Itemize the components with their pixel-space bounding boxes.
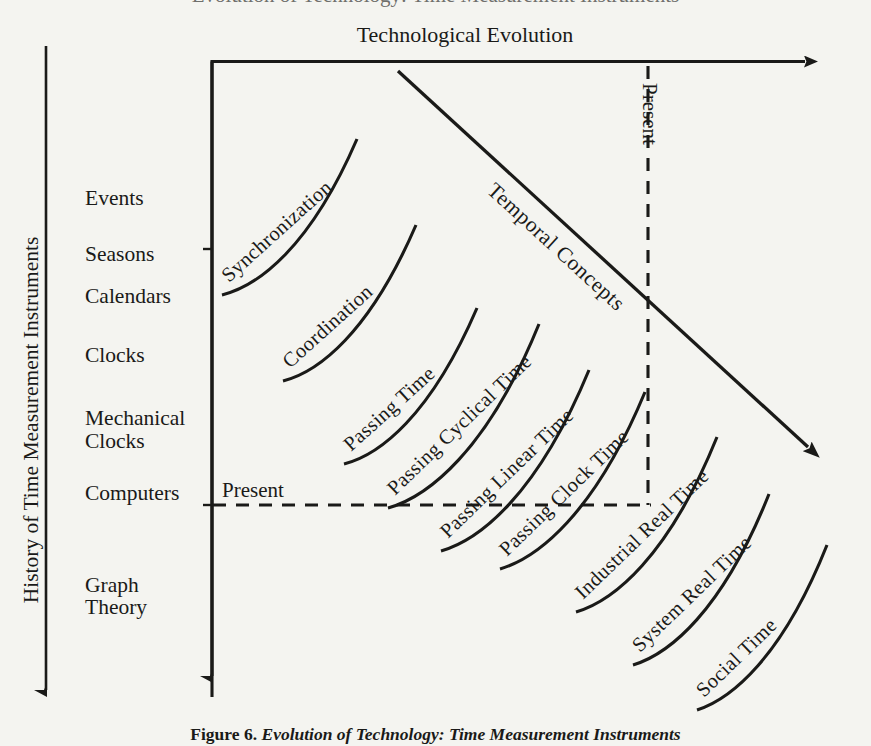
- instrument-label-clocks: Clocks: [85, 343, 145, 367]
- figure-caption-number: Figure 6.: [190, 724, 257, 744]
- instrument-label-events: Events: [85, 186, 144, 210]
- vertical-axis-title: History of Time Measurement Instruments: [19, 237, 43, 604]
- horizontal-axis-title: Technological Evolution: [357, 22, 574, 47]
- present-horizontal-label: Present: [222, 478, 284, 502]
- arc-label-system-real-time: System Real Time: [627, 531, 756, 656]
- instrument-label-graph: Graph: [85, 573, 139, 597]
- figure-caption-text: Evolution of Technology: Time Measuremen…: [261, 724, 680, 744]
- instrument-label-seasons: Seasons: [85, 242, 154, 266]
- instrument-label-mechanical-clocks: Clocks: [85, 429, 145, 453]
- instrument-label-calendars: Calendars: [85, 284, 171, 308]
- diagonal-axis-title: Temporal Concepts: [483, 178, 630, 316]
- instrument-label-computers: Computers: [85, 481, 179, 505]
- figure-page: Evolution of Technology: Time Measuremen…: [0, 0, 871, 746]
- temporal-concepts-arrow: [398, 71, 808, 447]
- arc-label-passing-clock-time: Passing Clock Time: [494, 425, 633, 561]
- arc-label-synchronization: Synchronization: [217, 176, 337, 287]
- present-vertical-label: Present: [638, 83, 662, 145]
- instrument-label-mechanical: Mechanical: [85, 406, 185, 430]
- instrument-label-theory: Theory: [85, 595, 147, 619]
- figure-caption: Figure 6. Evolution of Technology: Time …: [0, 724, 871, 746]
- present-vertical-marker: Present: [638, 66, 662, 505]
- instrument-labels: Events Seasons Calendars Clocks Mechanic…: [85, 186, 185, 619]
- vertical-history-axis: History of Time Measurement Instruments: [19, 46, 46, 690]
- evolution-diagram: History of Time Measurement Instruments …: [0, 0, 871, 724]
- temporal-concepts-diagonal: Temporal Concepts: [398, 71, 808, 447]
